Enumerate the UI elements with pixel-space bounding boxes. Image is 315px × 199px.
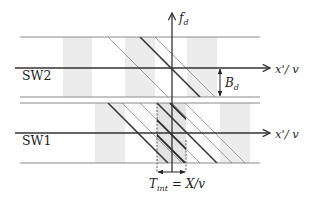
fd-axis-label: fd bbox=[178, 11, 189, 27]
sw1-label: SW1 bbox=[22, 133, 51, 148]
stripes bbox=[63, 37, 250, 163]
shaded-stripe bbox=[63, 37, 92, 97]
doppler-shift-diagram: SW2 SW1 fd x'/ v x'/ v Bd Tint = X/v bbox=[0, 0, 315, 199]
shaded-stripe bbox=[125, 37, 155, 97]
bandwidth-label: Bd bbox=[224, 76, 239, 92]
tint-label: Tint = X/v bbox=[149, 177, 205, 193]
sw2-axis-label: x'/ v bbox=[275, 62, 299, 76]
sw2-label: SW2 bbox=[22, 68, 51, 83]
sw1-axis-label: x'/ v bbox=[275, 127, 299, 141]
